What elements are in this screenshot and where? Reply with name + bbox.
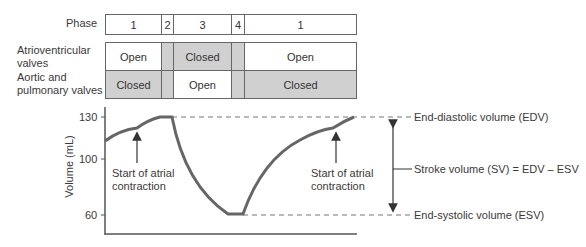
annotation-left-line1: Start of atrial [112, 167, 174, 180]
ytick-130: 130 [79, 111, 97, 124]
ytick-60: 60 [85, 209, 97, 222]
annotation-right-line2: contraction [311, 180, 365, 193]
volume-curve [105, 117, 354, 214]
edv-label: End-diastolic volume (EDV) [414, 111, 549, 124]
annotation-right-line1: Start of atrial [311, 167, 373, 180]
ytick-100: 100 [79, 153, 97, 166]
annotation-left-line2: contraction [112, 180, 166, 193]
sv-label: Stroke volume (SV) = EDV – ESV [414, 163, 579, 176]
y-axis-label: Volume (mL) [63, 135, 76, 197]
esv-label: End-systolic volume (ESV) [414, 209, 544, 222]
